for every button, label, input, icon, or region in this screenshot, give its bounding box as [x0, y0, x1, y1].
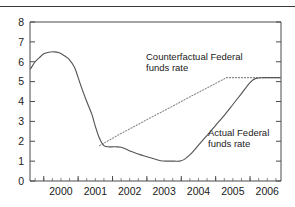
y-axis-tick-label: 8 [18, 16, 24, 28]
figure-panel: 012345678 2000200120022003200420052006 C… [0, 0, 295, 207]
y-axis-tick-label: 7 [18, 36, 24, 48]
actual-label-line1: Actual Federal [208, 127, 269, 138]
y-axis-tick-label: 3 [18, 115, 24, 127]
y-axis-tick-label: 6 [18, 56, 24, 68]
y-axis-tick-label: 5 [18, 75, 24, 87]
x-axis-tick-labels: 2000200120022003200420052006 [49, 185, 279, 197]
y-axis-tick-label: 0 [18, 175, 24, 187]
actual-label-line2: funds rate [208, 138, 250, 149]
y-axis-left-ticks [30, 22, 35, 181]
y-axis-right-ticks [276, 22, 281, 181]
x-axis-tick-label: 2002 [118, 185, 142, 197]
chart-canvas: 012345678 2000200120022003200420052006 C… [0, 0, 295, 207]
x-axis-major-ticks [44, 176, 250, 181]
x-axis-tick-label: 2005 [221, 185, 245, 197]
y-axis-tick-label: 4 [18, 95, 24, 107]
annotation-actual: Actual Federal funds rate [208, 127, 269, 149]
x-axis-tick-label: 2000 [49, 185, 73, 197]
y-axis-tick-label: 1 [18, 155, 24, 167]
x-axis-tick-label: 2006 [256, 185, 280, 197]
y-axis-tick-label: 2 [18, 135, 24, 147]
y-axis-tick-labels: 012345678 [18, 16, 24, 187]
x-axis-tick-label: 2004 [187, 185, 211, 197]
plot-frame [30, 22, 281, 181]
x-axis-tick-label: 2001 [84, 185, 108, 197]
counterfactual-label-line2: funds rate [146, 62, 188, 73]
x-axis-tick-label: 2003 [152, 185, 176, 197]
annotation-counterfactual: Counterfactual Federal funds rate [146, 51, 243, 73]
counterfactual-label-line1: Counterfactual Federal [146, 51, 243, 62]
